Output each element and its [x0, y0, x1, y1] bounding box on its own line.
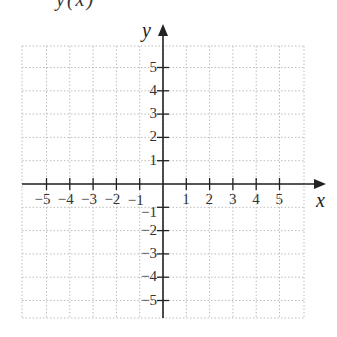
- y-tick-label: −3: [141, 246, 157, 261]
- y-tick-label: 4: [150, 83, 158, 98]
- y-tick-label: −5: [141, 293, 157, 308]
- x-axis-arrow-icon: [314, 179, 326, 189]
- x-tick-label: 5: [276, 192, 284, 207]
- grid-svg: [0, 0, 337, 337]
- x-tick-label: 4: [252, 192, 260, 207]
- y-axis-arrow-icon: [158, 24, 168, 36]
- y-tick-label: 3: [150, 106, 158, 121]
- y-tick-label: 2: [150, 129, 158, 144]
- x-tick-label: −5: [35, 192, 51, 207]
- coordinate-plane: y(x) y x −5−4−3−2−112345 54321−1−2−3−4−5: [0, 0, 337, 337]
- y-tick-label: −2: [141, 223, 157, 238]
- y-tick-label: −4: [141, 269, 157, 284]
- y-tick-label: −1: [141, 205, 157, 220]
- y-tick-label: 1: [150, 153, 158, 168]
- x-tick-label: 1: [182, 192, 190, 207]
- x-axis-label: x: [316, 190, 325, 210]
- x-tick-label: 2: [206, 192, 214, 207]
- x-tick-label: −4: [58, 192, 74, 207]
- y-axis-label: y: [142, 20, 151, 40]
- x-tick-label: −3: [81, 192, 97, 207]
- y-tick-label: 5: [150, 60, 158, 75]
- x-tick-label: 3: [229, 192, 237, 207]
- x-tick-label: −2: [104, 192, 120, 207]
